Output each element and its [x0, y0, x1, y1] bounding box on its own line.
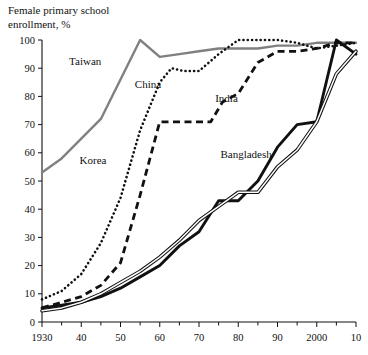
line-chart-plot: 0102030405060708090100 19304050607080902… — [0, 0, 368, 355]
x-tick-label: 1930 — [32, 332, 53, 343]
series-label-bangladesh: Bangladesh — [220, 148, 272, 160]
series-labels: TaiwanKoreaChinaIndiaBangladesh — [69, 55, 272, 166]
y-tick-label: 30 — [25, 232, 36, 243]
y-tick-label: 40 — [25, 204, 36, 215]
y-tick-label: 100 — [19, 35, 35, 46]
x-tick-label: 40 — [76, 332, 87, 343]
y-tick-label: 80 — [25, 91, 36, 102]
x-tick-label: 90 — [272, 332, 283, 343]
x-tick-label: 2000 — [306, 332, 327, 343]
series-line-china — [42, 43, 356, 308]
y-tick-label: 50 — [25, 176, 36, 187]
series-label-india: India — [215, 92, 238, 104]
y-axis: 0102030405060708090100 — [19, 35, 42, 328]
series-line-bangladesh — [42, 51, 356, 310]
x-axis: 1930405060708090200010 — [32, 322, 362, 343]
series-lines — [42, 40, 356, 311]
series-label-korea: Korea — [80, 154, 107, 166]
x-tick-label: 10 — [351, 332, 362, 343]
y-tick-label: 10 — [25, 288, 36, 299]
chart-container: Female primary school enrollment, % 0102… — [0, 0, 368, 355]
x-tick-label: 70 — [194, 332, 205, 343]
y-tick-label: 20 — [25, 260, 36, 271]
series-line-india — [42, 40, 356, 308]
y-tick-label: 90 — [25, 63, 36, 74]
x-tick-label: 80 — [233, 332, 244, 343]
x-tick-label: 60 — [155, 332, 166, 343]
series-label-taiwan: Taiwan — [69, 55, 102, 67]
y-tick-label: 70 — [25, 119, 36, 130]
series-line-korea — [42, 40, 356, 299]
x-tick-label: 50 — [115, 332, 126, 343]
series-label-china: China — [135, 78, 161, 90]
y-tick-label: 60 — [25, 147, 36, 158]
series-line-inner-bangladesh — [42, 51, 356, 310]
y-tick-label: 0 — [30, 317, 35, 328]
